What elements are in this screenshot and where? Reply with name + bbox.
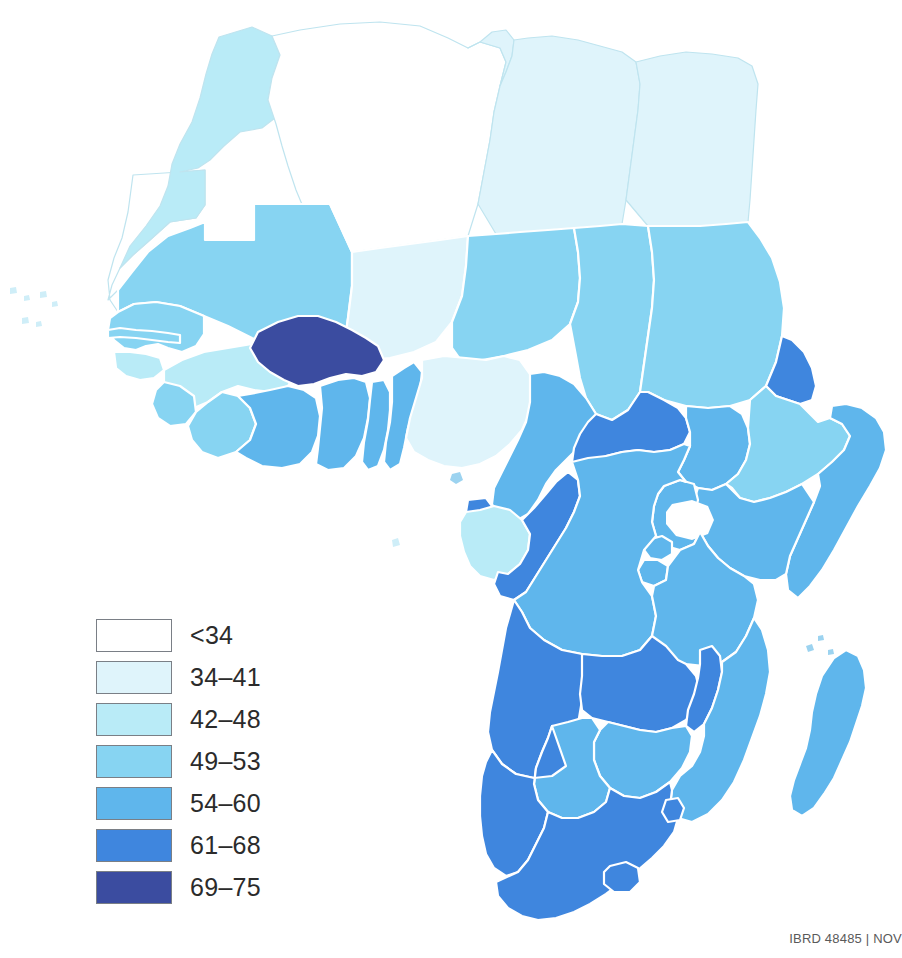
region-cape-verde-5[interactable] xyxy=(22,317,29,324)
region-cape-verde-2[interactable] xyxy=(24,295,30,301)
ibrd-credit: IBRD 48485 | NOV xyxy=(789,931,902,946)
region-cape-verde-3[interactable] xyxy=(40,291,47,298)
region-egypt[interactable] xyxy=(626,52,758,226)
legend-swatch-2 xyxy=(96,703,172,736)
legend-swatch-4 xyxy=(96,787,172,820)
legend-swatch-6 xyxy=(96,871,172,904)
region-guinea-bissau[interactable] xyxy=(114,352,164,380)
legend-swatch-0 xyxy=(96,619,172,652)
legend-label-6: 69–75 xyxy=(190,875,261,900)
region-bioko-island[interactable] xyxy=(450,472,463,484)
region-comoros-1[interactable] xyxy=(806,644,814,652)
region-sao-tome[interactable] xyxy=(392,538,400,547)
region-sudan[interactable] xyxy=(640,222,784,408)
region-lesotho[interactable] xyxy=(604,862,640,892)
africa-map: <34 34–41 42–48 49–53 54–60 61–68 69–75 … xyxy=(0,0,902,958)
legend-label-2: 42–48 xyxy=(190,707,261,732)
legend-row[interactable]: 34–41 xyxy=(96,656,296,698)
legend-row[interactable]: 42–48 xyxy=(96,698,296,740)
region-niger[interactable] xyxy=(452,228,580,362)
legend-label-3: 49–53 xyxy=(190,749,261,774)
region-cape-verde-1[interactable] xyxy=(10,287,17,294)
region-madagascar[interactable] xyxy=(790,650,866,816)
legend-row[interactable]: <34 xyxy=(96,614,296,656)
legend-label-0: <34 xyxy=(190,623,233,648)
legend-row[interactable]: 54–60 xyxy=(96,782,296,824)
region-senegal[interactable] xyxy=(108,302,204,352)
legend-swatch-1 xyxy=(96,661,172,694)
legend-row[interactable]: 49–53 xyxy=(96,740,296,782)
choropleth-legend: <34 34–41 42–48 49–53 54–60 61–68 69–75 xyxy=(96,614,296,908)
legend-label-4: 54–60 xyxy=(190,791,261,816)
legend-row[interactable]: 61–68 xyxy=(96,824,296,866)
legend-label-1: 34–41 xyxy=(190,665,261,690)
legend-row[interactable]: 69–75 xyxy=(96,866,296,908)
region-cape-verde-6[interactable] xyxy=(36,321,42,327)
legend-swatch-3 xyxy=(96,745,172,778)
region-comoros-2[interactable] xyxy=(818,635,824,641)
legend-label-5: 61–68 xyxy=(190,833,261,858)
region-comoros-3[interactable] xyxy=(828,649,834,655)
region-cape-verde-4[interactable] xyxy=(52,301,58,307)
legend-swatch-5 xyxy=(96,829,172,862)
region-eswatini[interactable] xyxy=(662,798,684,822)
